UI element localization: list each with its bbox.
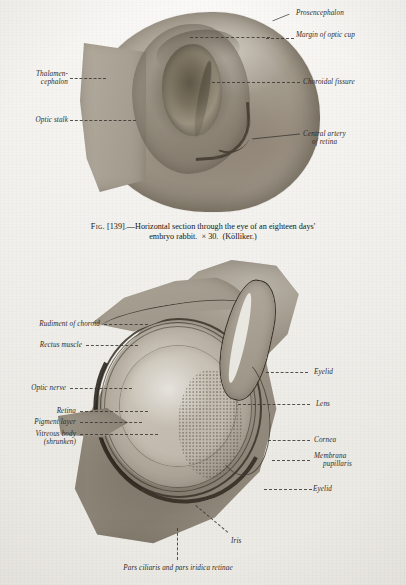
label-thalamencephalon-line2: cephalon	[41, 78, 68, 86]
label-central-artery-line1: Central artery	[303, 130, 346, 138]
label-lens: Lens	[316, 400, 330, 408]
label-optic-stalk: Optic stalk	[8, 116, 68, 124]
caption-number: [139].	[107, 222, 127, 231]
label-margin-of-optic-cup: Margin of optic cup	[296, 31, 355, 39]
label-iris: Iris	[231, 537, 241, 545]
label-membrana-pupillaris-line2: pupillaris	[314, 460, 352, 468]
leader-pigment-layer	[80, 422, 142, 423]
label-central-artery-of-retina: Central artery of retina	[303, 130, 346, 147]
label-eyelid-lower: Eyelid	[313, 485, 332, 493]
label-rectus-muscle: Rectus muscle	[10, 341, 82, 349]
figure-1-caption-line-2: embryo rabbit. × 30. (Kölliker.)	[0, 232, 406, 242]
leader-thalamencephalon	[70, 78, 106, 79]
leader-margin-optic-cup	[266, 38, 294, 39]
label-membrana-pupillaris-line1: Membrana	[314, 452, 346, 460]
leader-eyelid-lower	[264, 489, 312, 490]
label-pars-ciliaris-et-iridica: Pars ciliaris and pars iridica retinae	[0, 564, 356, 572]
caption-fig-word: Fig.	[91, 222, 105, 231]
label-eyelid-upper: Eyelid	[314, 368, 333, 376]
label-choroidal-fissure: Choroidal fissure	[303, 78, 355, 86]
label-central-artery-line2: of retina	[303, 138, 346, 146]
leader-membrana-pupillaris	[272, 460, 310, 461]
label-pigment-layer: Pigment layer	[8, 418, 76, 426]
figure-1-caption-line-1: Fig. [139].—Horizontal section through t…	[0, 222, 406, 232]
label-rudiment-of-choroid: Rudiment of choroid	[10, 320, 100, 328]
caption-dash: —	[127, 222, 135, 231]
label-prosencephalon: Prosencephalon	[296, 9, 344, 17]
label-vitreous-body: Vitreous body (shrunken)	[6, 430, 76, 447]
label-thalamencephalon: Thalamen- cephalon	[10, 70, 68, 87]
label-vitreous-body-line1: Vitreous body	[35, 430, 76, 438]
leader-margin-optic-cup-ext	[190, 37, 270, 38]
label-thalamencephalon-line1: Thalamen-	[36, 70, 68, 78]
label-vitreous-body-line2: (shrunken)	[44, 438, 76, 446]
leader-optic-nerve	[70, 388, 132, 389]
label-optic-nerve: Optic nerve	[8, 384, 66, 392]
label-membrana-pupillaris: Membrana pupillaris	[314, 452, 352, 469]
figure-2-eye-sagittal-section	[28, 258, 358, 548]
leader-rudiment-of-choroid	[104, 324, 148, 325]
leader-vitreous-body	[80, 434, 158, 435]
caption-text-line1: Horizontal section through the eye of an…	[135, 222, 315, 231]
label-retina: Retina	[14, 407, 76, 415]
leader-eyelid-upper	[266, 372, 308, 373]
leader-optic-stalk	[70, 120, 136, 121]
leader-rectus-muscle	[86, 345, 138, 346]
caption-text-line2: embryo rabbit.	[149, 232, 197, 241]
leader-lens	[238, 404, 310, 405]
leader-choroidal-fissure	[212, 82, 300, 83]
leader-pars-ciliaris	[177, 528, 178, 560]
caption-source: (Kölliker.)	[222, 232, 256, 241]
label-cornea: Cornea	[314, 436, 336, 444]
caption-magnification: × 30.	[201, 232, 218, 241]
leader-cornea	[268, 440, 310, 441]
leader-retina	[80, 411, 148, 412]
